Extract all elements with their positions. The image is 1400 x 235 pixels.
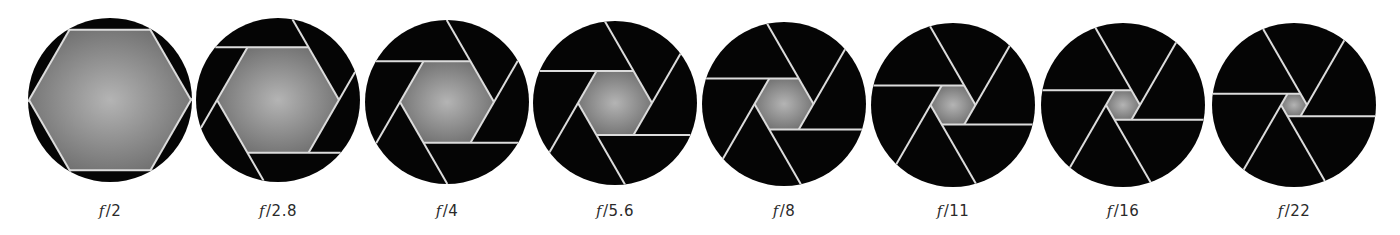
fstop-label: f/16 (1038, 202, 1208, 220)
f-symbol: f (1107, 202, 1113, 220)
f-symbol: f (773, 202, 779, 220)
aperture-blades-icon (530, 0, 700, 200)
aperture-blades-icon (699, 0, 869, 200)
aperture-fstop-2-8: f/2.8 (193, 0, 363, 235)
aperture-diagram-strip: f/2 f/2.8 f/4 f/5.6 f/8 f/11 f/16 (0, 0, 1400, 235)
fstop-value: /2.8 (266, 202, 297, 220)
aperture-blades-icon (868, 0, 1038, 200)
f-symbol: f (1278, 202, 1284, 220)
fstop-label: f/22 (1209, 202, 1379, 220)
aperture-fstop-8: f/8 (699, 0, 869, 235)
fstop-label: f/2.8 (193, 202, 363, 220)
aperture-blades-icon (25, 0, 195, 200)
aperture-blades-icon (1038, 0, 1208, 200)
fstop-label: f/8 (699, 202, 869, 220)
fstop-label: f/5.6 (530, 202, 700, 220)
aperture-fstop-5-6: f/5.6 (530, 0, 700, 235)
fstop-label: f/2 (25, 202, 195, 220)
aperture-fstop-16: f/16 (1038, 0, 1208, 235)
f-symbol: f (937, 202, 943, 220)
aperture-fstop-2: f/2 (25, 0, 195, 235)
aperture-blades-icon (1209, 0, 1379, 200)
f-symbol: f (259, 202, 265, 220)
fstop-value: /22 (1285, 202, 1311, 220)
aperture-fstop-22: f/22 (1209, 0, 1379, 235)
aperture-blades-icon (193, 0, 363, 200)
fstop-value: /16 (1114, 202, 1140, 220)
fstop-label: f/11 (868, 202, 1038, 220)
aperture-blades-icon (362, 0, 532, 200)
aperture-fstop-4: f/4 (362, 0, 532, 235)
aperture-fstop-11: f/11 (868, 0, 1038, 235)
fstop-value: /2 (106, 202, 122, 220)
fstop-value: /5.6 (603, 202, 634, 220)
f-symbol: f (436, 202, 442, 220)
fstop-label: f/4 (362, 202, 532, 220)
f-symbol: f (99, 202, 105, 220)
fstop-value: /11 (944, 202, 970, 220)
fstop-value: /4 (443, 202, 459, 220)
f-symbol: f (596, 202, 602, 220)
fstop-value: /8 (780, 202, 796, 220)
